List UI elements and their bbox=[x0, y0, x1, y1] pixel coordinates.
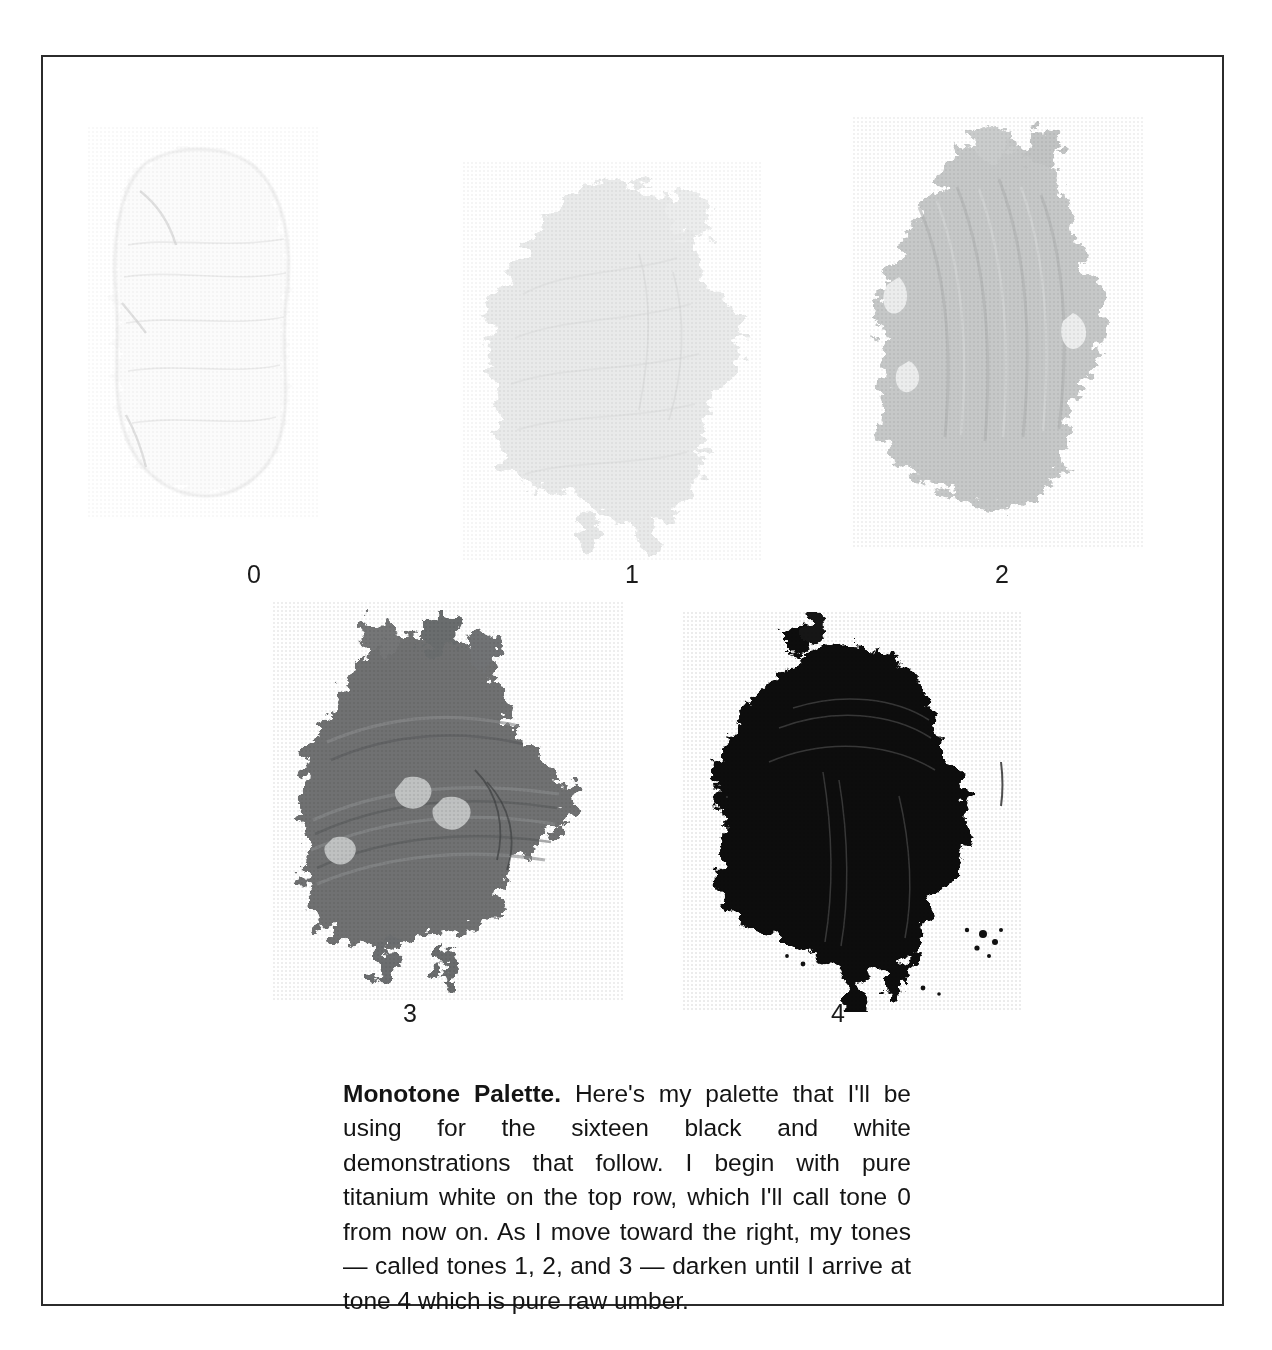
paint-swatch-tone-4 bbox=[683, 612, 1023, 1012]
paint-swatch-tone-2 bbox=[853, 117, 1143, 547]
paint-swatch-tone-0 bbox=[88, 127, 318, 517]
tone-label-3: 3 bbox=[390, 1001, 430, 1026]
tone-label-4: 4 bbox=[818, 1001, 858, 1026]
page-canvas: 0 bbox=[0, 0, 1272, 1350]
paint-smear-shape-4 bbox=[683, 612, 1023, 1012]
tone-label-2: 2 bbox=[982, 562, 1022, 587]
tone-label-0: 0 bbox=[234, 562, 274, 587]
paint-smear-shape-3 bbox=[273, 602, 623, 1002]
paint-swatch-tone-3 bbox=[273, 602, 623, 1002]
paint-smear-shape-1 bbox=[463, 162, 763, 562]
caption-body: Here's my palette that I'll be using for… bbox=[343, 1080, 911, 1314]
paint-smear-shape-2 bbox=[853, 117, 1143, 547]
paint-smear-shape-0 bbox=[88, 127, 318, 517]
paint-swatch-tone-1 bbox=[463, 162, 763, 562]
plate-caption: Monotone Palette. Here's my palette that… bbox=[343, 1077, 911, 1319]
caption-lead-in: Monotone Palette. bbox=[343, 1080, 561, 1107]
tone-label-1: 1 bbox=[612, 562, 652, 587]
